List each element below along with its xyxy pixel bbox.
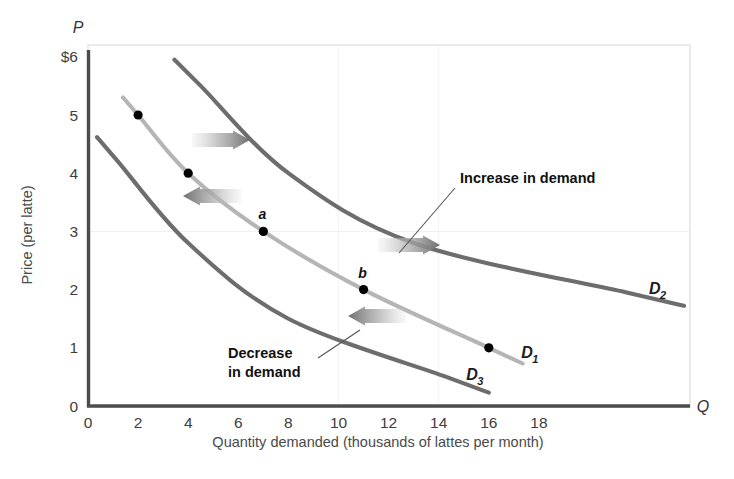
x-tick-label: 4 [184,414,193,431]
data-point-marker [359,285,368,294]
data-point-marker [134,110,143,119]
x-tick-label: 8 [284,414,293,431]
x-axis-title: Quantity demanded (thousands of lattes p… [212,434,543,450]
y-tick-label: 0 [69,398,78,415]
x-tick-label: 18 [530,414,547,431]
curve-label-subscript: 3 [477,375,483,387]
demand-curve-figure: 012345$6 024681012141618 P Q Quantity de… [0,0,734,479]
data-point-marker [484,343,493,352]
curve-label-subscript: 2 [659,289,666,301]
x-tick-label: 0 [84,414,93,431]
y-tick-label: $6 [61,48,78,65]
y-tick-label: 2 [69,281,78,298]
y-axis-title: Price (per latte) [19,185,35,284]
x-tick-label: 2 [134,414,143,431]
y-tick-label: 5 [69,107,78,124]
annotation-text-line: Decrease [228,345,293,361]
x-axis-symbol: Q [697,398,709,415]
x-tick-label: 6 [234,414,243,431]
x-tick-label: 16 [480,414,497,431]
point-label-b: b [358,265,367,281]
point-label-a: a [258,206,266,222]
annotation-text-line: in demand [228,364,301,380]
x-tick-label: 14 [430,414,448,431]
annotation-text-line: Increase in demand [460,170,595,186]
x-tick-label: 10 [330,414,348,431]
y-tick-label: 4 [69,165,78,182]
curve-label-subscript: 1 [532,353,538,365]
data-point-marker [259,227,268,236]
y-tick-label: 1 [69,339,78,356]
demand-shift-chart: 012345$6 024681012141618 P Q Quantity de… [0,0,734,479]
y-tick-label: 3 [69,223,78,240]
y-axis-symbol: P [73,19,84,36]
x-tick-label: 12 [380,414,397,431]
data-point-marker [184,169,193,178]
